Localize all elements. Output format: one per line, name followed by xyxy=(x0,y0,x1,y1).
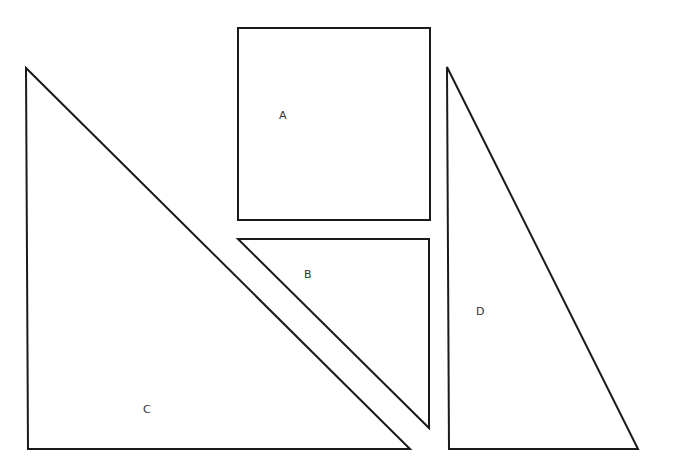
triangle-c xyxy=(26,68,410,449)
diagram-canvas: A B C D xyxy=(0,0,673,475)
triangle-b xyxy=(238,239,429,428)
label-a: A xyxy=(279,109,287,122)
label-d: D xyxy=(476,305,484,318)
label-c: C xyxy=(143,403,151,416)
label-b: B xyxy=(304,268,312,281)
square-a xyxy=(238,28,430,220)
triangle-d xyxy=(447,67,638,449)
